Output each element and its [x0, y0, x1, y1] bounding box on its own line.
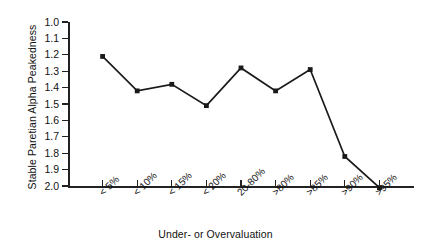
data-point-marker — [135, 88, 140, 93]
series-line — [103, 56, 380, 187]
series-plot-area — [0, 0, 431, 246]
data-point-marker — [273, 88, 278, 93]
data-point-marker — [342, 154, 347, 159]
line-chart: Stable Paretian Alpha Peakedness 1.01.11… — [0, 0, 431, 246]
data-point-marker — [308, 67, 313, 72]
data-point-marker — [204, 103, 209, 108]
data-point-marker — [377, 185, 382, 190]
data-point-marker — [169, 82, 174, 87]
x-axis-title: Under- or Overvaluation — [0, 228, 431, 240]
data-point-marker — [100, 54, 105, 59]
data-point-marker — [239, 66, 244, 71]
